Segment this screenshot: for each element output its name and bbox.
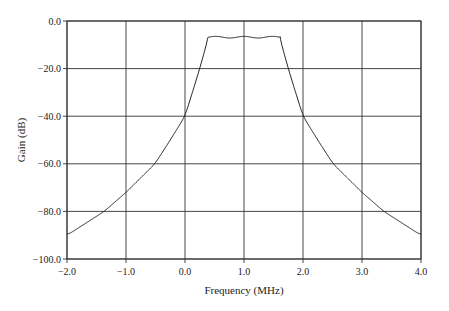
x-axis-ticks: −2.0−1.00.01.02.03.04.0: [58, 266, 427, 277]
x-tick-label: 4.0: [415, 266, 428, 277]
x-tick-label: 3.0: [356, 266, 369, 277]
y-axis-ticks: 0.0−20.0−40.0−60.0−80.0−100.0: [33, 16, 61, 265]
y-tick-label: −60.0: [38, 158, 61, 169]
x-tick-label: −2.0: [58, 266, 76, 277]
x-tick-label: 0.0: [179, 266, 192, 277]
x-tick-label: 1.0: [238, 266, 251, 277]
y-tick-label: −40.0: [38, 111, 61, 122]
x-tick-label: 2.0: [297, 266, 310, 277]
y-tick-label: −100.0: [33, 254, 61, 265]
y-tick-label: −80.0: [38, 206, 61, 217]
y-tick-label: 0.0: [49, 16, 62, 27]
x-tick-label: −1.0: [117, 266, 135, 277]
chart: −2.0−1.00.01.02.03.04.0 0.0−20.0−40.0−60…: [0, 0, 449, 311]
y-tick-label: −20.0: [38, 63, 61, 74]
y-axis-label: Gain (dB): [15, 118, 28, 163]
x-axis-label: Frequency (MHz): [204, 284, 283, 297]
gridlines: [63, 21, 421, 263]
